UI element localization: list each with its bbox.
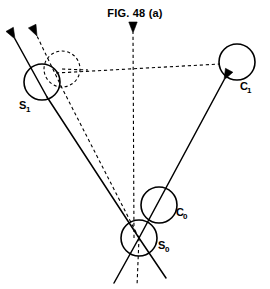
node-label-sub-s1: 1 — [26, 105, 31, 114]
s0-to-s1-solid — [47, 97, 139, 238]
node-label-sub-c0: 0 — [183, 212, 188, 221]
figure-container: FIG. 48 (a) S1C1C0S0 — [0, 0, 270, 289]
s0-to-s1-dashed — [62, 88, 139, 238]
node-circle-s1 — [24, 64, 60, 100]
node-circle-c0 — [141, 187, 177, 223]
diagram-canvas: S1C1C0S0 — [0, 0, 270, 289]
edges-layer — [15, 33, 224, 286]
s1-velocity-dashed-arrow — [37, 36, 62, 88]
arrowhead-s1-dashed — [28, 24, 37, 36]
ghost-circle-radius-dashed — [62, 69, 88, 70]
s0-lower-left-leg — [114, 238, 139, 283]
node-circle-c1 — [219, 44, 255, 80]
nodes-layer — [24, 44, 255, 256]
node-label-sub-c1: 1 — [247, 86, 252, 95]
arrowhead-s1-solid — [6, 27, 15, 39]
arrowhead-central-dashed — [129, 22, 137, 33]
central-vertical-dashed-arrow — [133, 33, 134, 238]
s0-lower-dashed-axis — [137, 238, 139, 286]
s1-to-c1-dashed-baseline — [56, 64, 220, 73]
labels-layer: S1C1C0S0 — [19, 80, 252, 254]
arrowheads-layer — [6, 22, 233, 80]
node-label-sub-s0: 0 — [165, 245, 170, 254]
